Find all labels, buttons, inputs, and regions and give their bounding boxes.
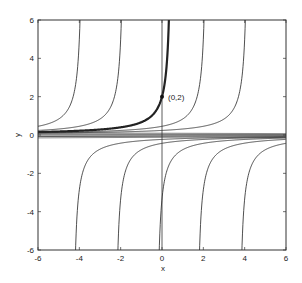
solution-curve (118, 137, 286, 259)
solution-curve (159, 138, 286, 260)
y-tick-label: 2 (30, 93, 35, 102)
point-marker (160, 95, 164, 99)
y-tick-label: -6 (27, 246, 35, 255)
solution-curve (38, 10, 246, 133)
highlighted-solution-curve (38, 10, 169, 132)
point-label: (0,2) (168, 93, 185, 102)
x-tick-label: 2 (201, 254, 206, 263)
solution-curve (242, 143, 286, 259)
x-tick-label: 4 (242, 254, 247, 263)
x-tick-label: -2 (117, 254, 125, 263)
x-tick-label: 6 (284, 254, 289, 263)
x-tick-label: -4 (76, 254, 84, 263)
x-tick-label: 0 (160, 254, 165, 263)
solution-curves-chart: -6-4-20246-6-4-20246 (0,2) x y (0, 0, 302, 283)
x-tick-label: -6 (34, 254, 42, 263)
y-axis-label: y (13, 133, 22, 137)
y-tick-label: -2 (27, 169, 35, 178)
y-tick-label: -4 (27, 208, 35, 217)
x-axis-label: x (161, 264, 165, 273)
y-tick-label: 4 (30, 54, 35, 63)
solution-curve (38, 10, 80, 126)
solution-curve (75, 137, 285, 260)
y-tick-label: 6 (30, 16, 35, 25)
y-tick-label: 0 (30, 131, 35, 140)
